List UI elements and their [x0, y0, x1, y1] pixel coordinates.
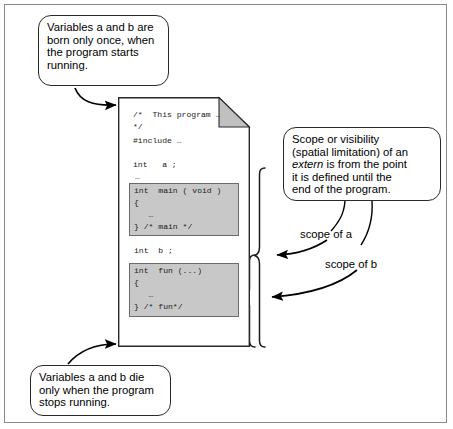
callout-right-line-3-extern: extern is from the point: [292, 158, 433, 171]
callout-bottom-line-1: Variables a and b die: [39, 371, 163, 384]
callout-top-line-1: Variables a and b are: [47, 21, 161, 34]
arrow-scope-a-to-brace: [277, 240, 327, 255]
callout-right-line-3-rest: is from the point: [323, 158, 407, 170]
callout-bottom-line-2: only when the program: [39, 384, 163, 397]
callout-scope-definition: Scope or visibility (spatial limitation)…: [283, 127, 441, 201]
code-line-declare-a: int a ;: [133, 161, 177, 170]
code-line-comment-close: */: [133, 123, 143, 132]
brace-scope-of-a: [255, 168, 266, 347]
code-line-fun-open-brace: {: [134, 279, 139, 288]
arrow-bottom-callout-to-document: [68, 344, 116, 364]
code-line-main-signature: int main ( void ): [134, 187, 221, 196]
code-line-fun-signature: int fun (...): [134, 267, 202, 276]
figure-canvas: /* This program … */ #include … int a ; …: [0, 0, 453, 429]
arrow-scope-b-to-brace: [272, 270, 357, 297]
source-file-document: /* This program … */ #include … int a ; …: [118, 97, 250, 347]
callout-right-line-1: Scope or visibility: [292, 133, 433, 146]
code-line-ellipsis-after-a: …: [135, 173, 140, 182]
label-scope-of-b: scope of b: [325, 258, 377, 270]
callout-variables-born: Variables a and b are born only once, wh…: [38, 15, 169, 86]
code-line-main-close-brace: } /* main */: [134, 223, 192, 232]
callout-bottom-line-3: stops running.: [39, 396, 163, 409]
label-scope-of-a: scope of a: [300, 228, 352, 240]
callout-right-line-2: (spatial limitation) of an: [292, 146, 433, 159]
callout-right-line-5: end of the program.: [292, 183, 433, 196]
code-line-main-ellipsis: …: [134, 211, 153, 220]
code-line-declare-b: int b ;: [134, 247, 173, 256]
code-line-fun-close-brace: } /* fun*/: [134, 303, 183, 312]
callout-right-line-4: it is defined until the: [292, 171, 433, 184]
connector-callout-to-scope-a: [331, 201, 345, 231]
callout-variables-die: Variables a and b die only when the prog…: [30, 365, 171, 416]
callout-top-line-2: born only once, when: [47, 34, 161, 47]
code-line-fun-ellipsis: …: [134, 291, 153, 300]
connector-callout-to-scope-b: [361, 201, 372, 245]
code-line-comment-open: /* This program …: [133, 111, 220, 120]
code-line-main-open-brace: {: [134, 199, 139, 208]
extern-keyword-emphasis: extern: [292, 158, 323, 170]
arrow-top-callout-to-document: [75, 88, 116, 105]
callout-top-line-3: the program starts: [47, 46, 161, 59]
callout-top-line-4: running.: [47, 59, 161, 72]
code-line-include: #include …: [133, 137, 182, 146]
code-listing: /* This program … */ #include … int a ; …: [118, 97, 250, 347]
